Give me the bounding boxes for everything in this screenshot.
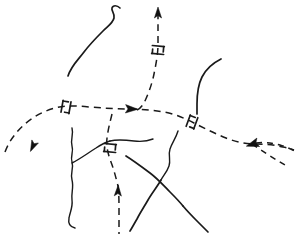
- structural-sketch-figure: [0, 0, 298, 249]
- figure-background: [0, 0, 298, 249]
- sketch-canvas: [0, 0, 298, 249]
